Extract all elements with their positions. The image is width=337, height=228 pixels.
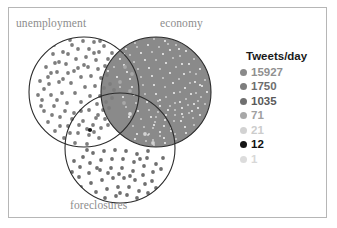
region-dots-all-three — [128, 112, 132, 116]
legend-dot-icon — [240, 69, 247, 76]
legend: Tweets/day 15927 1750 1035 71 21 12 1 — [240, 50, 330, 167]
legend-value: 15927 — [251, 67, 283, 79]
legend-value: 1 — [251, 154, 257, 166]
legend-dot-icon — [240, 127, 247, 134]
legend-dot-icon — [240, 156, 247, 163]
venn-label-unemployment: unemployment — [16, 17, 86, 29]
legend-value: 71 — [251, 110, 264, 122]
legend-value: 1750 — [251, 81, 277, 93]
legend-row: 1750 — [240, 80, 330, 95]
legend-row: 15927 — [240, 65, 330, 80]
venn-plot-area: unemployment economy foreclosures — [8, 7, 233, 218]
legend-row: 1 — [240, 152, 330, 167]
region-dots-economy-only — [101, 37, 211, 147]
legend-row: 1035 — [240, 94, 330, 109]
legend-dot-icon — [240, 98, 247, 105]
legend-dot-icon — [240, 112, 247, 119]
legend-value: 1035 — [251, 96, 277, 108]
venn-label-economy: economy — [160, 17, 203, 29]
legend-value: 21 — [251, 125, 264, 137]
legend-dot-icon — [240, 141, 247, 148]
venn-diagram-figure: unemployment economy foreclosures Tweets… — [0, 0, 337, 228]
venn-label-foreclosures: foreclosures — [70, 199, 127, 211]
legend-row: 12 — [240, 138, 330, 153]
region-dots-unemployment-foreclosures — [88, 128, 92, 132]
legend-value: 12 — [251, 139, 264, 151]
legend-row: 71 — [240, 109, 330, 124]
venn-circles — [8, 7, 233, 218]
legend-dot-icon — [240, 83, 247, 90]
legend-row: 21 — [240, 123, 330, 138]
legend-title: Tweets/day — [246, 50, 330, 62]
